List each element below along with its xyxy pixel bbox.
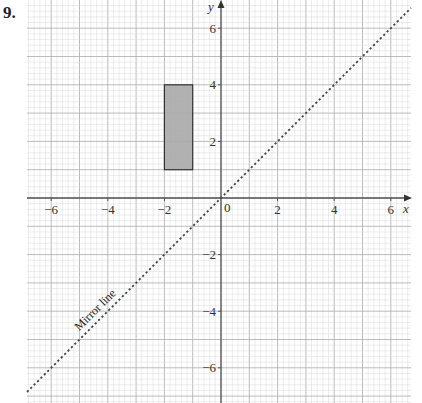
x-tick-label: −6 (44, 202, 58, 217)
mirror-line-label: Mirror line (71, 286, 118, 333)
x-tick-label: −2 (157, 202, 171, 217)
y-tick-label: 2 (210, 134, 217, 149)
x-tick-label: 0 (224, 200, 231, 215)
x-tick-label: 2 (274, 202, 281, 217)
y-tick-label: −4 (202, 304, 216, 319)
y-axis-label: y (206, 0, 214, 14)
y-tick-label: −6 (202, 360, 216, 375)
x-tick-label: −4 (101, 202, 115, 217)
x-tick-label: 6 (388, 202, 395, 217)
x-tick-label: 4 (331, 202, 338, 217)
y-tick-label: 4 (210, 77, 217, 92)
mirror-line (27, 8, 411, 392)
y-tick-label: −2 (202, 247, 216, 262)
shaded-rectangle (164, 85, 192, 170)
x-axis-label: x (402, 201, 409, 216)
y-axis-arrow-icon (218, 0, 225, 8)
coordinate-grid: xy−6−4−20246642−2−4−6Mirror line (0, 0, 422, 403)
y-tick-label: 6 (210, 21, 217, 36)
